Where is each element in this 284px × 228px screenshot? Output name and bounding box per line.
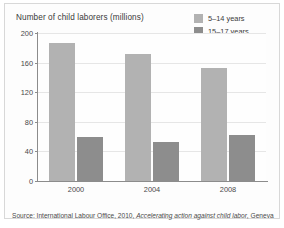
bar <box>49 43 75 181</box>
bar <box>201 68 227 181</box>
y-axis-tick-label: 200 <box>7 29 33 38</box>
legend-label-5-14: 5–14 years <box>208 14 245 23</box>
chart-title: Number of child laborers (millions) <box>16 13 144 22</box>
x-axis-tick-label: 2004 <box>144 185 160 194</box>
y-axis-tick-label: 40 <box>7 147 33 156</box>
bar <box>77 137 103 181</box>
bar <box>229 135 255 181</box>
source-prefix: Source: International Labour Office, 201… <box>12 212 136 219</box>
y-axis-tick-label: 120 <box>7 88 33 97</box>
y-axis-tick-label: 160 <box>7 58 33 67</box>
plot-area <box>38 33 266 181</box>
x-axis-line <box>37 181 268 182</box>
chart-figure: Number of child laborers (millions) 5–14… <box>0 0 284 228</box>
source-suffix: , Geneva <box>247 212 274 219</box>
x-axis-tick-label: 2008 <box>220 185 236 194</box>
x-axis-tick-label: 2000 <box>68 185 84 194</box>
source-note: Source: International Labour Office, 201… <box>12 212 274 219</box>
y-axis-tick-label: 80 <box>7 117 33 126</box>
bar-group <box>38 33 114 181</box>
legend-item-5-14: 5–14 years <box>194 13 272 24</box>
bar <box>125 54 151 181</box>
bar-group <box>114 33 190 181</box>
bar <box>153 142 179 181</box>
legend-swatch-5-14 <box>194 14 203 23</box>
bar-group <box>190 33 266 181</box>
y-axis-line <box>37 32 38 182</box>
y-axis-tick-label: 0 <box>7 177 33 186</box>
source-title: Accelerating action against child labor <box>136 212 247 219</box>
